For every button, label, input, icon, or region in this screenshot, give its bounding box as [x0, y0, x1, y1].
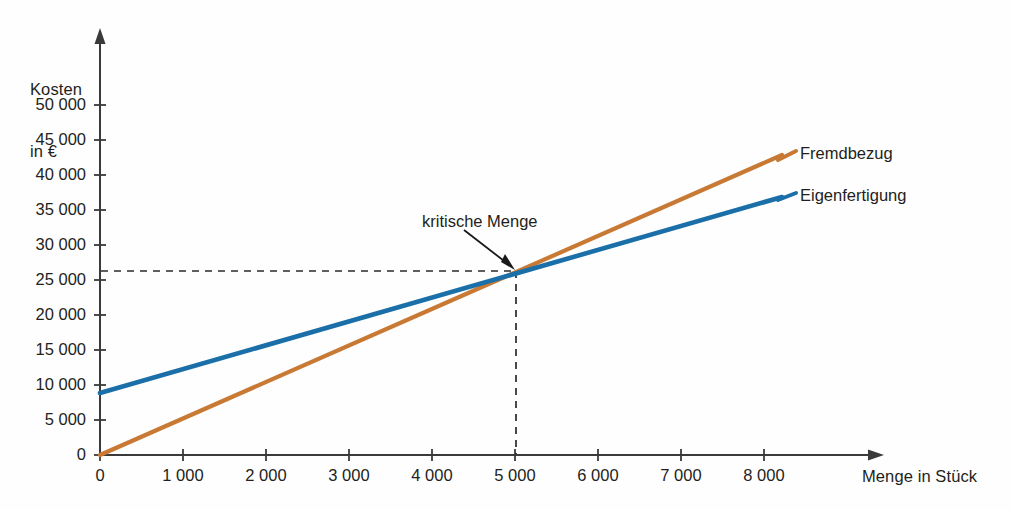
legend-label-fremdbezug: Fremdbezug — [800, 144, 893, 163]
y-tick-label-50000: 50 000 — [0, 95, 86, 114]
y-tick-label-35000: 35 000 — [0, 200, 86, 219]
y-tick-label-10000: 10 000 — [0, 375, 86, 394]
chart-canvas — [0, 0, 1012, 510]
x-axis-caption: Menge in Stück — [862, 466, 977, 487]
x-tick-label-6000: 6 000 — [558, 466, 638, 485]
x-tick-label-0: 0 — [60, 466, 140, 485]
x-axis-arrow-icon — [868, 450, 884, 461]
x-tick-label-4000: 4 000 — [392, 466, 472, 485]
x-tick-label-1000: 1 000 — [143, 466, 223, 485]
x-tick-label-2000: 2 000 — [226, 466, 306, 485]
y-tick-label-40000: 40 000 — [0, 165, 86, 184]
x-axis — [100, 450, 884, 461]
y-tick-label-5000: 5 000 — [0, 410, 86, 429]
y-tick-label-45000: 45 000 — [0, 130, 86, 149]
legend-label-eigenfertigung: Eigenfertigung — [800, 186, 906, 205]
x-tick-label-8000: 8 000 — [724, 466, 804, 485]
critical-quantity-label: kritische Menge — [422, 212, 538, 231]
critical-quantity-arrow-icon — [464, 230, 515, 270]
cost-comparison-chart: Kosten in € Menge in Stück 50 000 45 000… — [0, 0, 1012, 510]
x-tick-label-3000: 3 000 — [309, 466, 389, 485]
y-tick-label-0: 0 — [0, 445, 86, 464]
series-line-fremdbezug — [100, 155, 782, 455]
y-tick-label-30000: 30 000 — [0, 235, 86, 254]
y-tick-label-20000: 20 000 — [0, 305, 86, 324]
y-tick-label-15000: 15 000 — [0, 340, 86, 359]
y-tick-label-25000: 25 000 — [0, 270, 86, 289]
x-tick-label-7000: 7 000 — [641, 466, 721, 485]
y-axis-arrow-icon — [95, 28, 106, 44]
x-tick-label-5000: 5 000 — [475, 466, 555, 485]
